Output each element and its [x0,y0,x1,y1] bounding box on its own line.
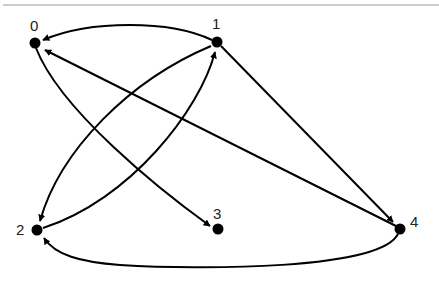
node-label-1: 1 [212,15,220,32]
node-1[interactable] [212,37,223,48]
node-label-0: 0 [30,17,38,34]
node-label-3: 3 [213,205,221,222]
edge-4-to-2 [44,234,398,267]
edge-0-to-3 [36,48,210,226]
edge-2-to-1 [43,52,215,228]
node-2[interactable] [32,225,43,236]
node-3[interactable] [213,224,224,235]
graph-canvas: 0 1 2 3 4 [0,0,439,283]
edge-1-to-0 [43,25,212,40]
edge-1-to-2 [40,46,211,221]
node-label-2: 2 [16,221,24,238]
edge-1-to-4 [221,46,393,222]
node-4[interactable] [395,224,406,235]
node-0[interactable] [30,38,41,49]
node-label-4: 4 [410,213,418,230]
edge-4-to-0 [45,50,396,226]
